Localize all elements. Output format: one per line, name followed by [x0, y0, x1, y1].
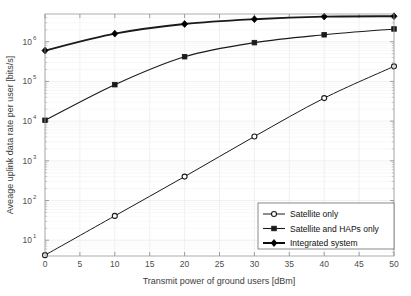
x-tick-label: 5	[78, 259, 83, 269]
legend-label: Satellite and HAPs only	[290, 224, 380, 234]
x-tick-label: 40	[319, 259, 329, 269]
y-tick-label: 106	[23, 35, 37, 47]
y-tick-label: 103	[23, 154, 37, 166]
legend-marker	[272, 212, 277, 217]
x-tick-label: 25	[215, 259, 225, 269]
x-tick-label: 0	[43, 259, 48, 269]
svg-text:10: 10	[23, 76, 33, 86]
y-tick-label: 101	[23, 233, 37, 245]
svg-text:4: 4	[33, 114, 37, 120]
chart-figure: 05101520253035404550 101102103104105106 …	[0, 0, 411, 296]
data-point-marker	[112, 213, 117, 218]
y-axis-title: Aveage uplink data rate per user [bits/s…	[5, 56, 15, 214]
svg-text:10: 10	[23, 235, 33, 245]
svg-text:5: 5	[33, 74, 37, 80]
chart-legend[interactable]: Satellite onlySatellite and HAPs onlyInt…	[258, 203, 394, 249]
data-point-marker	[182, 54, 187, 59]
svg-text:3: 3	[33, 154, 37, 160]
x-tick-label: 10	[110, 259, 120, 269]
x-tick-label: 45	[354, 259, 364, 269]
x-tick-label: 30	[250, 259, 260, 269]
y-tick-label: 104	[23, 114, 37, 126]
svg-text:10: 10	[23, 37, 33, 47]
x-tick-label: 35	[285, 259, 295, 269]
legend-label: Satellite only	[290, 209, 339, 219]
data-point-marker	[322, 32, 327, 37]
y-tick-label: 105	[23, 74, 37, 86]
data-point-marker	[322, 96, 327, 101]
svg-text:10: 10	[23, 156, 33, 166]
x-tick-labels: 05101520253035404550	[43, 259, 399, 269]
semilog-chart: 05101520253035404550 101102103104105106 …	[0, 0, 411, 296]
legend-label: Integrated system	[290, 238, 358, 248]
y-tick-labels: 101102103104105106	[23, 35, 37, 245]
data-point-marker	[113, 82, 118, 87]
y-tick-label: 102	[23, 194, 37, 206]
svg-text:10: 10	[23, 196, 33, 206]
x-tick-label: 20	[180, 259, 190, 269]
svg-text:10: 10	[23, 116, 33, 126]
data-point-marker	[252, 134, 257, 139]
svg-text:2: 2	[33, 194, 37, 200]
x-axis-title: Transmit power of ground users [dBm]	[143, 276, 296, 286]
svg-text:1: 1	[33, 233, 37, 239]
legend-marker	[272, 226, 277, 231]
data-point-marker	[182, 174, 187, 179]
x-tick-label: 15	[145, 259, 155, 269]
svg-text:6: 6	[33, 35, 37, 41]
x-tick-label: 50	[389, 259, 399, 269]
data-point-marker	[252, 40, 257, 45]
